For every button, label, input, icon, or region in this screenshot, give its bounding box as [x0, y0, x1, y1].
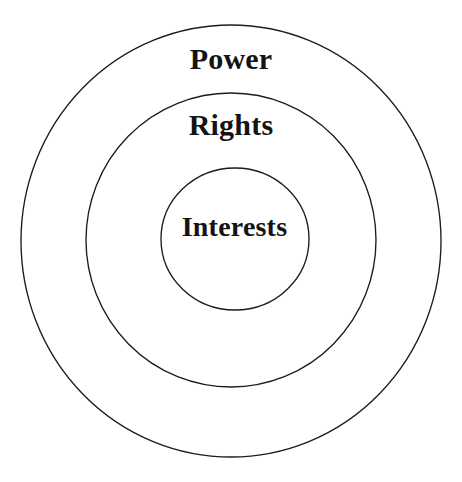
ring-label-rights: Rights: [0, 109, 462, 141]
ring-label-power: Power: [0, 43, 462, 75]
concentric-circles-diagram: Power Rights Interests: [0, 0, 462, 482]
ring-label-interests: Interests: [0, 212, 462, 242]
